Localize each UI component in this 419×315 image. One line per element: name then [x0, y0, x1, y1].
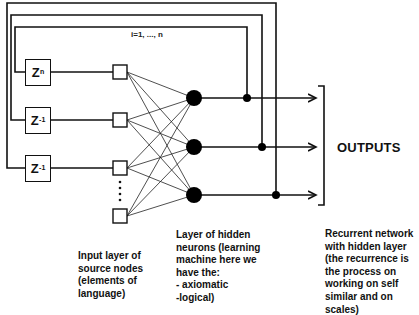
- output-lines: [194, 98, 316, 195]
- delay-unit-z-minus-1: Z-1: [25, 155, 51, 182]
- caption-line: similar and on: [325, 291, 413, 304]
- input-node: [113, 65, 127, 79]
- caption-line: - axiomatic: [176, 279, 260, 292]
- delay-unit-z-minus-1: Z-1: [25, 107, 51, 134]
- caption-line: the process on: [325, 266, 413, 279]
- iteration-label: i=1, ..., n: [131, 30, 163, 39]
- caption-line: Layer of hidden: [176, 229, 260, 242]
- outputs-bracket: [318, 86, 324, 205]
- delay-base: Z: [31, 113, 39, 128]
- delay-exponent: -1: [39, 164, 45, 171]
- hidden-layer-caption: Layer of hidden neurons (learning machin…: [176, 229, 260, 305]
- caption-line: Recurrent network: [325, 228, 413, 241]
- junction-dot: [272, 191, 280, 199]
- hidden-neuron: [186, 187, 202, 203]
- caption-line: neurons (learning: [176, 242, 260, 255]
- delay-base: Z: [31, 161, 39, 176]
- outputs-label: OUTPUTS: [337, 140, 401, 155]
- delay-to-input-lines: [51, 72, 113, 168]
- delay-unit-zn: Zn: [25, 59, 51, 86]
- hidden-neuron: [186, 90, 202, 106]
- delay-exponent: n: [40, 68, 44, 75]
- caption-line: Input layer of: [78, 250, 143, 263]
- caption-line: with hidden layer: [325, 241, 413, 254]
- caption-line: source nodes: [78, 263, 143, 276]
- delay-base: Z: [32, 65, 40, 80]
- junction-dot: [258, 143, 266, 151]
- junction-dot: [243, 94, 251, 102]
- input-layer-caption: Input layer of source nodes (elements of…: [78, 250, 143, 300]
- recurrent-network-caption: Recurrent network with hidden layer (the…: [325, 228, 413, 315]
- delay-exponent: -1: [39, 116, 45, 123]
- caption-line: scales): [325, 304, 413, 315]
- input-hidden-connections: [127, 72, 194, 216]
- caption-line: machine here we: [176, 254, 260, 267]
- input-node: [113, 161, 127, 175]
- hidden-neuron: [186, 139, 202, 155]
- ellipsis-dots: [119, 181, 122, 202]
- caption-line: (elements of: [78, 275, 143, 288]
- hidden-layer: [186, 90, 202, 203]
- input-node: [113, 113, 127, 127]
- caption-line: have the:: [176, 267, 260, 280]
- caption-line: language): [78, 288, 143, 301]
- input-node: [113, 209, 127, 223]
- caption-line: -logical): [176, 292, 260, 305]
- caption-line: working on self: [325, 278, 413, 291]
- caption-line: (the recurrence is: [325, 253, 413, 266]
